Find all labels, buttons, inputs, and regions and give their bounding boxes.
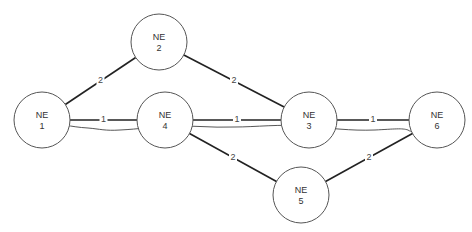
node-ne2: NE2 bbox=[131, 14, 187, 70]
node-number-label: 3 bbox=[306, 121, 311, 131]
link-weight-label: 1 bbox=[370, 114, 375, 124]
link-weight-label: 2 bbox=[366, 152, 371, 162]
link-weight-label: 2 bbox=[231, 75, 236, 85]
link-weight-label: 2 bbox=[98, 75, 103, 85]
node-circle bbox=[273, 167, 329, 223]
node-number-label: 5 bbox=[298, 196, 303, 206]
link-weight-label: 1 bbox=[101, 114, 106, 124]
link-weight-label: 2 bbox=[230, 152, 235, 162]
node-circle bbox=[409, 92, 465, 148]
link-weight-label: 1 bbox=[234, 114, 239, 124]
node-circle bbox=[131, 14, 187, 70]
node-circle bbox=[281, 92, 337, 148]
node-ne1: NE1 bbox=[14, 92, 70, 148]
node-type-label: NE bbox=[303, 110, 316, 120]
node-ne4: NE4 bbox=[137, 92, 193, 148]
node-number-label: 1 bbox=[39, 121, 44, 131]
node-type-label: NE bbox=[159, 110, 172, 120]
node-circle bbox=[14, 92, 70, 148]
node-type-label: NE bbox=[295, 185, 308, 195]
node-ne6: NE6 bbox=[409, 92, 465, 148]
node-circle bbox=[137, 92, 193, 148]
node-type-label: NE bbox=[431, 110, 444, 120]
node-number-label: 6 bbox=[434, 121, 439, 131]
node-ne5: NE5 bbox=[273, 167, 329, 223]
node-type-label: NE bbox=[36, 110, 49, 120]
node-number-label: 4 bbox=[162, 121, 167, 131]
node-type-label: NE bbox=[153, 32, 166, 42]
node-ne3: NE3 bbox=[281, 92, 337, 148]
network-diagram: NE1NE2NE3NE4NE5NE6 2211122 bbox=[0, 0, 472, 232]
node-number-label: 2 bbox=[156, 43, 161, 53]
